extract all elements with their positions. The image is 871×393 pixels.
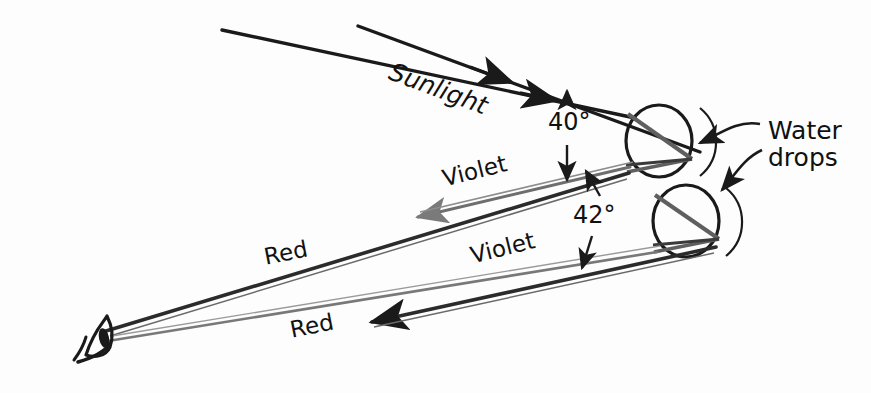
label-water-drops: Water drops <box>768 117 842 171</box>
internal-path-lower-drop <box>653 195 719 252</box>
sunlight-arrowhead-lower <box>470 67 512 83</box>
label-water-drops-line2: drops <box>768 144 842 171</box>
angle-arc-lower <box>726 188 742 256</box>
eye-icon <box>74 316 112 362</box>
label-angle-42: 42° <box>573 203 616 229</box>
rainbow-ray-diagram <box>0 0 871 393</box>
label-water-drops-line1: Water <box>768 117 842 144</box>
ray-secondary-strokes <box>110 162 714 336</box>
label-angle-40: 40° <box>548 110 591 136</box>
violet-ray-lower-to-eye <box>108 252 657 341</box>
red-ray-upper-to-eye <box>106 173 629 331</box>
callout-arrow-upper-drop <box>700 123 760 143</box>
internal-path-upper-drop <box>626 114 692 172</box>
figure-canvas: Sunlight Violet Violet Red Red 40° 42° W… <box>0 0 871 393</box>
callout-arrow-lower-drop <box>722 150 762 190</box>
